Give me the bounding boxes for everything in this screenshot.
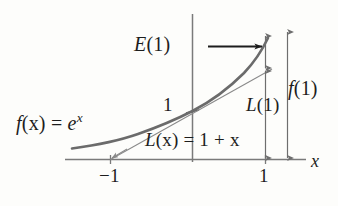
tangent-x-intercept-pointer xyxy=(112,149,127,158)
x-axis-label: x xyxy=(311,152,319,170)
error-label: E(1) xyxy=(134,34,170,54)
linearization-figure: E(1) f(x) = ex L(x) = 1 + x L(1) f(1) 1 … xyxy=(0,0,338,206)
function-value-label: f(1) xyxy=(288,78,318,98)
x-tick-label-one: 1 xyxy=(259,166,269,185)
y-intercept-label: 1 xyxy=(163,95,173,114)
linearization-value-label: L(1) xyxy=(246,95,280,114)
linearization-definition-label: L(x) = 1 + x xyxy=(145,130,240,149)
x-tick-label-negative-one: −1 xyxy=(99,166,120,185)
function-definition-label: f(x) = ex xyxy=(16,111,83,133)
